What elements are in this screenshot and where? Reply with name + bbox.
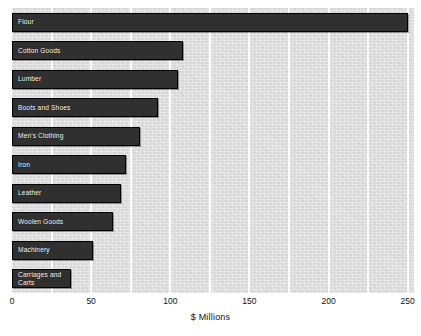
x-tick-label: 250 bbox=[401, 296, 415, 306]
bar-label: Lumber bbox=[18, 75, 41, 83]
bar-label: Boots and Shoes bbox=[18, 103, 70, 111]
bar-row: Leather bbox=[12, 179, 414, 208]
bar[interactable]: Leather bbox=[12, 184, 121, 203]
bar-row: Iron bbox=[12, 151, 414, 180]
x-axis: 050100150200250 bbox=[12, 293, 414, 309]
bar-label: Men's Clothing bbox=[18, 132, 64, 140]
x-tick-label: 200 bbox=[321, 296, 335, 306]
bar-row: Lumber bbox=[12, 65, 414, 94]
bar-label: Woolen Goods bbox=[18, 217, 63, 225]
bar-row: Woolen Goods bbox=[12, 208, 414, 237]
bar[interactable]: Cotton Goods bbox=[12, 41, 183, 60]
x-tick-label: 150 bbox=[242, 296, 256, 306]
bar-label: Carriages and Carts bbox=[18, 270, 61, 286]
bar-label: Flour bbox=[18, 18, 34, 26]
bar[interactable]: Iron bbox=[12, 155, 126, 174]
bars-layer: FlourCotton GoodsLumberBoots and ShoesMe… bbox=[12, 8, 414, 293]
bar[interactable]: Carriages and Carts bbox=[12, 269, 71, 288]
bar[interactable]: Lumber bbox=[12, 70, 178, 89]
bar[interactable]: Men's Clothing bbox=[12, 127, 140, 146]
bar-label: Machinery bbox=[18, 246, 50, 254]
bar-label: Leather bbox=[18, 189, 41, 197]
x-tick-label: 50 bbox=[86, 296, 95, 306]
bar-row: Boots and Shoes bbox=[12, 94, 414, 123]
x-tick-label: 100 bbox=[163, 296, 177, 306]
bar[interactable]: Machinery bbox=[12, 241, 93, 260]
bar[interactable]: Woolen Goods bbox=[12, 212, 113, 231]
bar-row: Flour bbox=[12, 8, 414, 37]
bar-row: Machinery bbox=[12, 236, 414, 265]
bar-chart: FlourCotton GoodsLumberBoots and ShoesMe… bbox=[0, 0, 421, 336]
x-tick-label: 0 bbox=[10, 296, 15, 306]
bar-label: Iron bbox=[18, 160, 30, 168]
x-axis-title: $ Millions bbox=[0, 312, 421, 322]
bar-label: Cotton Goods bbox=[18, 46, 61, 54]
plot-area: FlourCotton GoodsLumberBoots and ShoesMe… bbox=[12, 8, 414, 293]
bar[interactable]: Boots and Shoes bbox=[12, 98, 158, 117]
bar-row: Cotton Goods bbox=[12, 37, 414, 66]
bar-row: Men's Clothing bbox=[12, 122, 414, 151]
bar[interactable]: Flour bbox=[12, 13, 408, 32]
bar-row: Carriages and Carts bbox=[12, 265, 414, 294]
